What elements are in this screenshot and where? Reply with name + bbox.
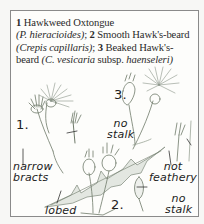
- label-lobed: lobed: [45, 205, 77, 216]
- label-text: bracts: [13, 172, 53, 183]
- illustration-frame: 1 Hawkweed Oxtongue (P. hieracioides); 2…: [10, 10, 199, 217]
- label-text: feathery: [149, 172, 197, 183]
- label-narrow-bracts: narrow bracts: [13, 161, 53, 183]
- label-plant-3: 3.: [114, 89, 127, 100]
- plant-3-sketch: [122, 67, 191, 161]
- label-plant-1: 1.: [16, 119, 29, 130]
- botanical-illustration: [11, 11, 200, 218]
- label-not-feathery: not feathery: [149, 161, 197, 183]
- label-plant-2: 2.: [111, 199, 124, 210]
- label-text: stalk: [107, 129, 134, 140]
- label-no-stalk-top: no stalk: [107, 118, 134, 140]
- label-text: stalk: [165, 204, 192, 215]
- label-no-stalk-bottom: no stalk: [165, 193, 192, 215]
